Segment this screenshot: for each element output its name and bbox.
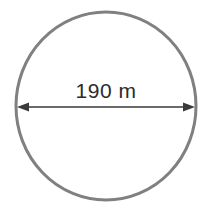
circle-diameter-diagram: 190 m [0,0,210,213]
diagram-canvas: 190 m [0,0,210,213]
circle-outline [16,12,196,200]
diameter-label: 190 m [76,79,137,102]
